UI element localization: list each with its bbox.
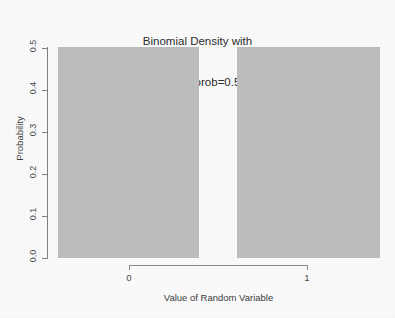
y-axis-tick-label-5: 0.5 xyxy=(0,41,40,51)
bar-category-1 xyxy=(237,47,380,258)
y-axis-tick-4 xyxy=(42,90,47,91)
y-axis-tick-label-4: 0.4 xyxy=(0,83,40,93)
y-axis-tick-5 xyxy=(42,48,47,49)
y-axis-tick-label-0: 0.0 xyxy=(0,251,40,261)
x-axis-title: Value of Random Variable xyxy=(128,292,309,303)
x-axis-tick-label-0: 0 xyxy=(114,272,144,283)
y-axis-title: Probability xyxy=(14,99,25,179)
y-axis-tick-2 xyxy=(42,174,47,175)
x-axis-tick-0 xyxy=(129,265,130,270)
x-axis-tick-label-1: 1 xyxy=(292,272,322,283)
y-axis-tick-0 xyxy=(42,258,47,259)
y-axis-tick-label-1: 0.1 xyxy=(0,209,40,219)
y-axis-tick-3 xyxy=(42,132,47,133)
y-axis-line xyxy=(47,47,48,259)
x-axis-tick-1 xyxy=(307,265,308,270)
binomial-density-chart: Binomial Density with (size=1, prob=0.5)… xyxy=(0,0,395,318)
bar-category-0 xyxy=(58,47,199,258)
plot-area xyxy=(47,47,380,258)
y-axis-tick-1 xyxy=(42,216,47,217)
x-axis-line xyxy=(129,265,308,266)
